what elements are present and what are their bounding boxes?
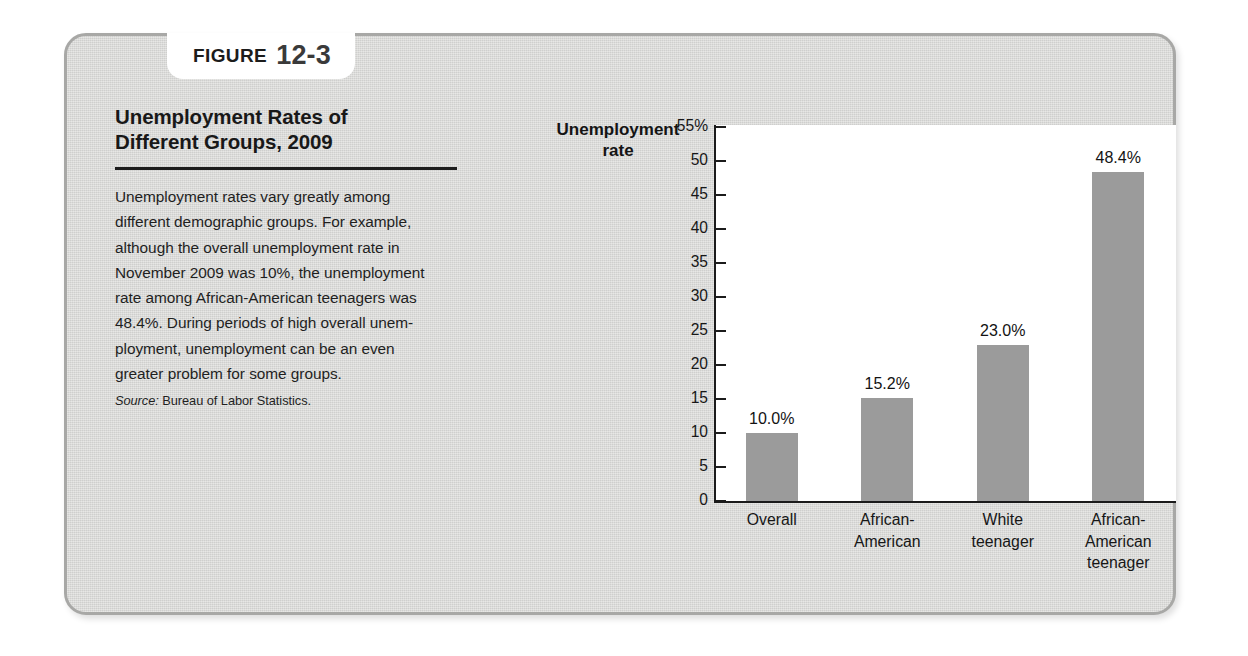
y-axis-tick-label: 55% bbox=[677, 117, 708, 135]
y-axis-tick-label: 20 bbox=[691, 355, 708, 373]
source-line: Source: Bureau of Labor Statistics. bbox=[115, 393, 457, 408]
y-axis-tick-label: 45 bbox=[691, 185, 708, 203]
y-axis-tick-mark bbox=[716, 262, 726, 264]
caption-column: Unemployment Rates of Different Groups, … bbox=[115, 104, 457, 408]
figure-number: 12-3 bbox=[276, 40, 331, 71]
bar-value-label: 48.4% bbox=[1096, 149, 1141, 167]
y-axis-tick-label: 40 bbox=[691, 219, 708, 237]
y-axis-tick-mark bbox=[716, 228, 726, 230]
bar-value-label: 23.0% bbox=[980, 322, 1025, 340]
y-axis-tick-mark bbox=[716, 398, 726, 400]
bar-value-label: 10.0% bbox=[749, 410, 794, 428]
figure-title: Unemployment Rates of Different Groups, … bbox=[115, 104, 457, 154]
y-axis-tick-label: 50 bbox=[691, 151, 708, 169]
plot-area: 55%50454035302520151050 10.0%15.2%23.0%4… bbox=[714, 125, 1176, 503]
caption-body-text: Unemployment rates vary greatly among di… bbox=[115, 184, 457, 386]
y-axis-tick-label: 10 bbox=[691, 423, 708, 441]
source-label: Source: bbox=[115, 393, 159, 408]
figure-label-word: FIGURE bbox=[193, 45, 267, 67]
y-axis-tick-mark bbox=[716, 296, 726, 298]
x-axis-category-label: African- American teenager bbox=[1062, 509, 1174, 574]
bar: 23.0% bbox=[977, 345, 1029, 501]
source-value: Bureau of Labor Statistics. bbox=[159, 393, 311, 408]
x-axis-category-label: White teenager bbox=[947, 509, 1059, 552]
y-axis-tick-mark bbox=[716, 364, 726, 366]
y-axis-tick-mark bbox=[716, 160, 726, 162]
y-axis-tick-label: 5 bbox=[699, 457, 708, 475]
bar: 48.4% bbox=[1092, 172, 1144, 501]
bar: 10.0% bbox=[746, 433, 798, 501]
y-axis-tick-mark bbox=[716, 432, 726, 434]
y-axis-tick-label: 15 bbox=[691, 389, 708, 407]
y-axis-tick-label: 25 bbox=[691, 321, 708, 339]
y-axis-tick-mark bbox=[716, 466, 726, 468]
x-axis-category-label: Overall bbox=[716, 509, 828, 531]
y-axis-tick-label: 35 bbox=[691, 253, 708, 271]
x-axis-line bbox=[714, 501, 1176, 503]
x-axis-category-label: African- American bbox=[831, 509, 943, 552]
y-axis-tick-label: 0 bbox=[699, 491, 708, 509]
y-axis-tick-mark bbox=[716, 500, 726, 502]
y-axis-line bbox=[714, 125, 716, 503]
bar: 15.2% bbox=[861, 398, 913, 501]
figure-panel: FIGURE 12-3 Unemployment Rates of Differ… bbox=[64, 33, 1176, 615]
bar-value-label: 15.2% bbox=[865, 375, 910, 393]
y-axis-tick-mark bbox=[716, 194, 726, 196]
y-axis-tick-label: 30 bbox=[691, 287, 708, 305]
figure-number-tab: FIGURE 12-3 bbox=[167, 33, 355, 79]
title-divider bbox=[115, 167, 457, 170]
y-axis-tick-mark bbox=[716, 330, 726, 332]
y-axis-tick-mark bbox=[716, 126, 726, 128]
